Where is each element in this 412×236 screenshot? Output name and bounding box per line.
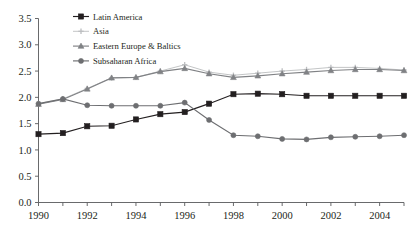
data-point (328, 93, 333, 98)
data-point (353, 93, 358, 98)
data-point (158, 112, 163, 117)
data-point (231, 133, 236, 138)
x-axis-labels: 19901992199419961998200020022004 (28, 210, 391, 221)
y-tick-label: 3.5 (18, 13, 31, 24)
data-point (158, 103, 163, 108)
data-point (206, 101, 211, 106)
data-point (401, 93, 406, 98)
x-tick-label: 2004 (369, 210, 391, 221)
series-line (39, 99, 405, 139)
data-point (60, 131, 65, 136)
data-point (255, 134, 260, 139)
data-point (280, 92, 285, 97)
series-latin-america (36, 91, 407, 137)
chart-canvas: 0.00.51.01.52.02.53.03.5 199019921994199… (0, 0, 412, 236)
series-eastern-europe-baltics (36, 65, 407, 106)
data-point (304, 137, 309, 142)
legend-label: Latin America (93, 12, 143, 22)
data-point (207, 117, 212, 122)
y-tick-label: 0.5 (18, 171, 31, 182)
x-tick-label: 1998 (223, 210, 244, 221)
data-point (133, 103, 138, 108)
x-tick-label: 2000 (272, 210, 293, 221)
data-point (280, 136, 285, 141)
legend-marker (78, 14, 83, 19)
y-tick-label: 2.5 (18, 66, 31, 77)
legend-entry: Asia (73, 26, 109, 36)
y-tick-label: 1.0 (18, 145, 31, 156)
y-tick-label: 2.0 (18, 92, 31, 103)
x-tick-label: 2002 (320, 210, 341, 221)
legend-marker (79, 58, 84, 63)
data-point (85, 124, 90, 129)
series-asia (36, 62, 407, 106)
y-tick-label: 1.5 (18, 118, 31, 129)
legend-label: Subsaharan Africa (93, 56, 156, 66)
legend-label: Eastern Europe & Baltics (93, 41, 181, 51)
series-line (39, 65, 405, 104)
data-point (109, 123, 114, 128)
legend-entry: Eastern Europe & Baltics (73, 41, 181, 51)
data-point (182, 109, 187, 114)
data-point (328, 135, 333, 140)
line-chart: 0.00.51.01.52.02.53.03.5 199019921994199… (0, 0, 412, 236)
data-point (182, 100, 187, 105)
x-axis-ticks (39, 203, 405, 207)
data-point (36, 132, 41, 137)
x-tick-label: 1990 (28, 210, 49, 221)
chart-legend: Latin AmericaAsiaEastern Europe & Baltic… (73, 12, 181, 66)
data-point (255, 91, 260, 96)
x-tick-label: 1994 (125, 210, 147, 221)
data-point (402, 133, 407, 138)
data-point (36, 101, 41, 106)
data-point (109, 103, 114, 108)
x-tick-label: 1992 (77, 210, 98, 221)
data-point (304, 93, 309, 98)
y-tick-label: 3.0 (18, 39, 31, 50)
series-subsaharan-africa (36, 96, 407, 141)
data-point (182, 65, 188, 70)
data-point (377, 93, 382, 98)
legend-label: Asia (93, 26, 109, 36)
y-axis-labels: 0.00.51.01.52.02.53.03.5 (18, 13, 31, 208)
data-point (353, 134, 358, 139)
data-point (85, 103, 90, 108)
data-point (133, 117, 138, 122)
legend-entry: Latin America (73, 12, 143, 22)
y-tick-label: 0.0 (18, 197, 31, 208)
data-point (60, 96, 65, 101)
y-axis-ticks (35, 19, 39, 203)
data-series-group (36, 62, 407, 142)
x-tick-label: 1996 (174, 210, 195, 221)
data-point (231, 92, 236, 97)
data-point (377, 134, 382, 139)
legend-entry: Subsaharan Africa (73, 56, 156, 66)
